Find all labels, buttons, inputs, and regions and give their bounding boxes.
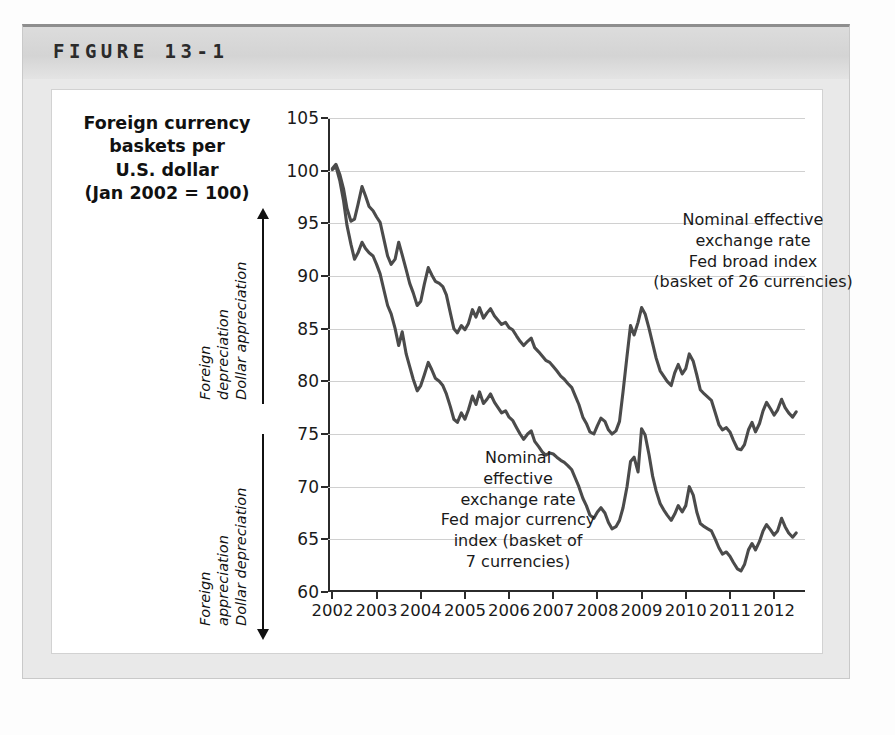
y-tick-label: 95: [297, 213, 319, 233]
y-tick: [321, 328, 328, 330]
x-tick-label: 2004: [400, 601, 442, 620]
x-tick-label: 2002: [311, 601, 353, 620]
annotation-major-line-6: 7 currencies): [412, 552, 624, 573]
x-tick-label: 2011: [709, 601, 751, 620]
dir-upper-line-1: Foreign: [196, 262, 214, 400]
arrow-up-icon: [262, 218, 264, 404]
x-tick-label: 2006: [488, 601, 530, 620]
annotation-major-line-2: effective: [412, 469, 624, 490]
annotation-broad-line-2: exchange rate: [628, 231, 878, 252]
y-axis-title-line-4: (Jan 2002 = 100): [58, 182, 276, 205]
x-tick: [641, 592, 643, 599]
dir-lower-line-3: Dollar depreciation: [232, 488, 250, 626]
y-tick: [321, 117, 328, 119]
dir-upper-line-3: Dollar appreciation: [232, 262, 250, 400]
y-tick: [321, 591, 328, 593]
x-tick: [376, 592, 378, 599]
x-tick: [596, 592, 598, 599]
y-axis-title-line-1: Foreign currency: [58, 112, 276, 135]
annotation-broad-line-4: (basket of 26 currencies): [628, 272, 878, 293]
y-tick: [321, 538, 328, 540]
y-axis-title-line-2: baskets per: [58, 135, 276, 158]
x-tick-label: 2005: [444, 601, 486, 620]
figure-page: FIGURE 13-1 Foreign currency baskets per…: [0, 0, 895, 735]
x-tick: [420, 592, 422, 599]
x-tick: [729, 592, 731, 599]
y-tick: [321, 222, 328, 224]
y-tick: [321, 275, 328, 277]
y-tick-label: 75: [297, 424, 319, 444]
plot-area: 6065707580859095100105 20022003200420052…: [328, 118, 805, 592]
series-line-broad-index: [332, 164, 796, 449]
annotation-major-index: Nominal effective exchange rate Fed majo…: [412, 448, 624, 573]
annotation-major-line-1: Nominal: [412, 448, 624, 469]
annotation-major-line-4: Fed major currency: [412, 510, 624, 531]
chart-panel: Foreign currency baskets per U.S. dollar…: [51, 89, 823, 654]
y-tick-label: 65: [297, 529, 319, 549]
annotation-broad-index: Nominal effective exchange rate Fed broa…: [628, 210, 878, 293]
y-tick: [321, 170, 328, 172]
x-tick: [508, 592, 510, 599]
y-tick-label: 80: [297, 371, 319, 391]
annotation-broad-line-1: Nominal effective: [628, 210, 878, 231]
line-chart: 6065707580859095100105 20022003200420052…: [276, 108, 811, 644]
x-tick-label: 2007: [532, 601, 574, 620]
annotation-broad-line-3: Fed broad index: [628, 252, 878, 273]
dir-upper-line-2: depreciation: [214, 262, 232, 400]
x-tick-label: 2008: [576, 601, 618, 620]
y-tick: [321, 486, 328, 488]
y-tick-label: 90: [297, 266, 319, 286]
y-tick-label: 85: [297, 319, 319, 339]
x-tick-label: 2003: [356, 601, 398, 620]
arrow-down-icon: [262, 434, 264, 630]
annotation-major-line-5: index (basket of: [412, 531, 624, 552]
x-tick: [464, 592, 466, 599]
y-tick: [321, 380, 328, 382]
y-axis-title-line-3: U.S. dollar: [58, 159, 276, 182]
dir-lower-line-1: Foreign: [196, 488, 214, 626]
figure-card: FIGURE 13-1 Foreign currency baskets per…: [22, 24, 850, 679]
y-tick-label: 105: [287, 108, 319, 128]
y-tick-label: 60: [297, 582, 319, 602]
y-tick-label: 100: [287, 161, 319, 181]
y-tick-label: 70: [297, 477, 319, 497]
direction-annotation-upper-text: Foreign depreciation Dollar appreciation: [196, 262, 250, 400]
figure-label: FIGURE 13-1: [53, 40, 228, 62]
x-tick-label: 2012: [753, 601, 795, 620]
x-tick-label: 2009: [621, 601, 663, 620]
y-axis-title: Foreign currency baskets per U.S. dollar…: [58, 112, 276, 206]
direction-annotation-upper: Foreign depreciation Dollar appreciation: [178, 218, 274, 404]
x-tick: [552, 592, 554, 599]
annotation-major-line-3: exchange rate: [412, 490, 624, 511]
x-tick: [773, 592, 775, 599]
direction-annotation-lower: Foreign appreciation Dollar depreciation: [178, 434, 274, 630]
dir-lower-line-2: appreciation: [214, 488, 232, 626]
x-tick-label: 2010: [665, 601, 707, 620]
x-tick: [685, 592, 687, 599]
y-tick: [321, 433, 328, 435]
x-tick: [331, 592, 333, 599]
direction-annotation-lower-text: Foreign appreciation Dollar depreciation: [196, 488, 250, 626]
